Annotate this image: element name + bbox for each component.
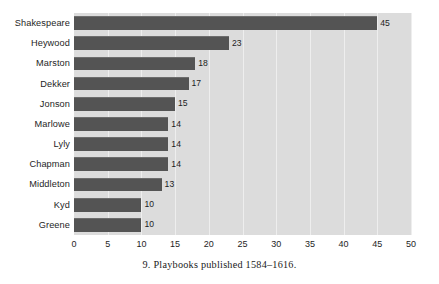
bar	[74, 198, 141, 212]
bar-row: 10	[74, 215, 411, 235]
x-axis-tick-label: 5	[105, 239, 110, 249]
x-axis-tick-label: 25	[237, 239, 247, 249]
y-axis-tick-label: Greene	[0, 215, 70, 235]
bar-row: 14	[74, 114, 411, 134]
bar	[74, 16, 377, 30]
bar-value-label: 17	[192, 76, 202, 90]
bar	[74, 57, 195, 71]
x-axis-tick-label: 30	[271, 239, 281, 249]
bar-row: 17	[74, 74, 411, 94]
bar	[74, 157, 168, 171]
y-axis-tick-label: Shakespeare	[0, 13, 70, 33]
bar-value-label: 18	[198, 56, 208, 70]
bar-row: 14	[74, 134, 411, 154]
y-axis-tick-label: Lyly	[0, 134, 70, 154]
bar-value-label: 15	[178, 96, 188, 110]
bar-series: 4523181715141414131010	[74, 13, 411, 235]
bar	[74, 77, 189, 91]
x-axis-tick-label: 45	[372, 239, 382, 249]
x-axis-tick-label: 10	[136, 239, 146, 249]
x-axis-tick-label: 35	[305, 239, 315, 249]
y-axis-tick-label: Heywood	[0, 33, 70, 53]
bar-row: 18	[74, 53, 411, 73]
x-axis-tick-label: 0	[71, 239, 76, 249]
bar-value-label: 45	[380, 16, 390, 30]
y-axis-tick-labels: ShakespeareHeywoodMarstonDekkerJonsonMar…	[0, 13, 70, 235]
bar-value-label: 10	[144, 197, 154, 211]
bar	[74, 117, 168, 131]
bar	[74, 137, 168, 151]
y-axis-tick-label: Dekker	[0, 74, 70, 94]
bar	[74, 218, 141, 232]
y-axis-tick-label: Chapman	[0, 154, 70, 174]
bar-value-label: 14	[171, 117, 181, 131]
figure: ShakespeareHeywoodMarstonDekkerJonsonMar…	[0, 0, 439, 284]
bar	[74, 178, 162, 192]
x-axis-tick-label: 20	[204, 239, 214, 249]
bar-row: 45	[74, 13, 411, 33]
y-axis-tick-label: Kyd	[0, 195, 70, 215]
x-axis-tick-labels: 05101520253035404550	[74, 235, 411, 255]
bar-value-label: 10	[144, 217, 154, 231]
y-axis-tick-label: Marlowe	[0, 114, 70, 134]
y-axis-tick-label: Marston	[0, 53, 70, 73]
bar-row: 10	[74, 195, 411, 215]
bar-value-label: 13	[165, 177, 175, 191]
bar-row: 14	[74, 154, 411, 174]
x-axis-tick-label: 15	[170, 239, 180, 249]
bar-value-label: 23	[232, 36, 242, 50]
plot-area: 4523181715141414131010	[74, 13, 411, 235]
bar-row: 13	[74, 174, 411, 194]
bar-value-label: 14	[171, 157, 181, 171]
bar-row: 15	[74, 94, 411, 114]
bar-row: 23	[74, 33, 411, 53]
bar-value-label: 14	[171, 137, 181, 151]
bar-chart: ShakespeareHeywoodMarstonDekkerJonsonMar…	[0, 4, 439, 256]
x-axis-tick-label: 50	[406, 239, 416, 249]
gridline	[411, 13, 412, 235]
x-axis-tick-label: 40	[339, 239, 349, 249]
figure-caption: 9. Playbooks published 1584–1616.	[0, 259, 439, 270]
y-axis-tick-label: Middleton	[0, 174, 70, 194]
y-axis-tick-label: Jonson	[0, 94, 70, 114]
bar	[74, 97, 175, 111]
bar	[74, 36, 229, 50]
